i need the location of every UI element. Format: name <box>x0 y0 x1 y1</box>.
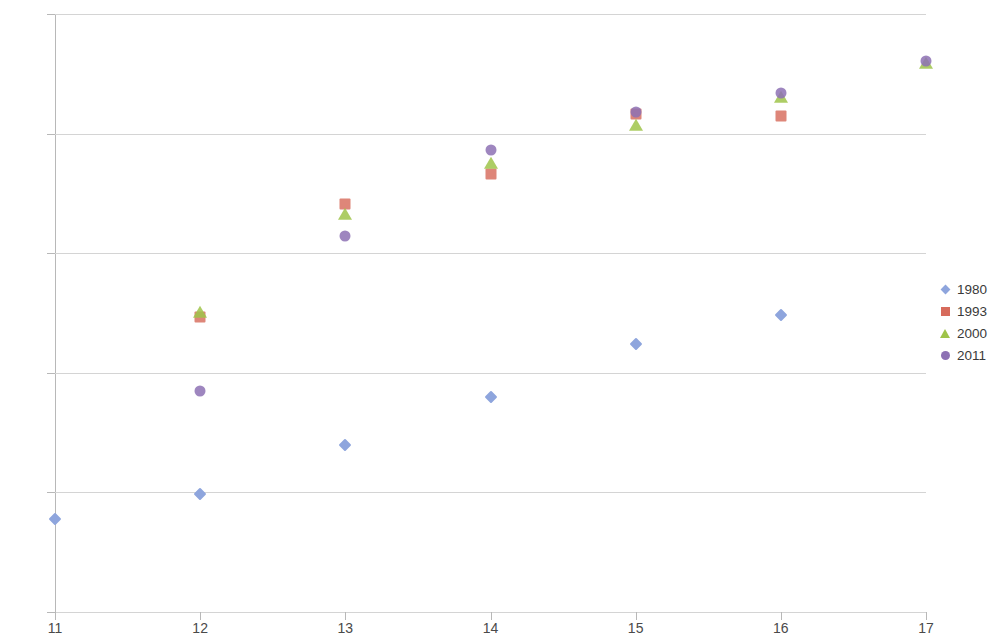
circle-marker-icon <box>938 351 952 360</box>
legend-label: 2011 <box>957 348 986 363</box>
data-point <box>193 306 207 318</box>
x-axis-tick <box>55 612 56 620</box>
y-axis-tick <box>47 492 55 493</box>
diamond-marker-icon <box>938 286 952 293</box>
data-point <box>485 145 496 156</box>
y-axis-tick <box>47 373 55 374</box>
legend-item-2011[interactable]: 2011 <box>938 344 1004 366</box>
square-marker-icon <box>938 307 952 316</box>
data-point <box>485 169 496 180</box>
data-point <box>484 390 497 403</box>
x-axis-tick <box>781 612 782 620</box>
x-axis-tick-label: 11 <box>25 620 85 636</box>
data-point <box>629 338 642 351</box>
triangle-marker-icon <box>938 329 952 338</box>
data-point <box>775 110 786 121</box>
data-point <box>194 487 207 500</box>
y-axis-tick <box>47 14 55 15</box>
legend-label: 1993 <box>957 304 987 319</box>
data-point <box>340 231 351 242</box>
legend-label: 2000 <box>957 326 987 341</box>
plot-area <box>55 14 926 612</box>
x-axis-tick-label: 16 <box>751 620 811 636</box>
y-axis-tick <box>47 134 55 135</box>
data-point <box>775 87 786 98</box>
x-axis-tick-label: 13 <box>315 620 375 636</box>
scatter-chart: 1.11.21.31.41.51.6 11121314151617 198019… <box>0 0 1004 641</box>
data-point <box>629 119 643 131</box>
x-axis-tick <box>345 612 346 620</box>
x-axis-tick <box>491 612 492 620</box>
chart-legend: 1980199320002011 <box>938 278 1004 366</box>
y-axis-tick <box>47 253 55 254</box>
x-axis-tick-label: 12 <box>170 620 230 636</box>
x-axis-tick <box>200 612 201 620</box>
legend-item-1993[interactable]: 1993 <box>938 300 1004 322</box>
data-point <box>339 438 352 451</box>
y-axis-tick <box>47 612 55 613</box>
data-point <box>630 107 641 118</box>
legend-label: 1980 <box>957 282 987 297</box>
data-point <box>774 309 787 322</box>
x-axis-tick-label: 15 <box>606 620 666 636</box>
data-point <box>921 55 932 66</box>
x-axis-tick <box>926 612 927 620</box>
x-axis-tick-label: 14 <box>461 620 521 636</box>
data-point <box>49 512 62 525</box>
data-point <box>338 208 352 220</box>
x-axis-tick <box>636 612 637 620</box>
legend-item-2000[interactable]: 2000 <box>938 322 1004 344</box>
legend-item-1980[interactable]: 1980 <box>938 278 1004 300</box>
data-point <box>484 156 498 168</box>
x-axis-tick-label: 17 <box>896 620 956 636</box>
data-point <box>195 385 206 396</box>
